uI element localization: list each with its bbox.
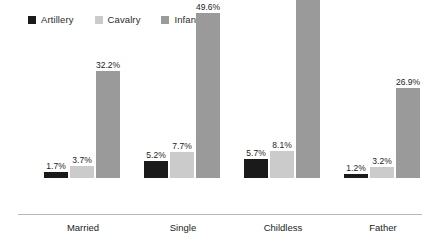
bar-group: 1.7%3.7%32.2%Married [44,0,122,215]
bar-column: 3.7% [70,0,94,178]
bar-group: 5.7%8.1%54.9%Childless [244,0,322,215]
bar-group-bars: 5.2%7.7%49.6% [144,0,222,178]
bar-value-label: 5.2% [146,150,165,160]
bar-group-bars: 5.7%8.1%54.9% [244,0,322,178]
bar-column: 7.7% [170,0,194,178]
bar-column: 26.9% [396,0,420,178]
bar-value-label: 8.1% [272,140,291,150]
bar-value-label: 5.7% [246,148,265,158]
bar[interactable] [396,88,420,178]
bar-value-label: 1.2% [346,163,365,173]
bar[interactable] [96,71,120,178]
x-axis-category-label: Married [44,222,122,234]
bar-column: 32.2% [96,0,120,178]
x-axis-category-label: Single [144,222,222,234]
bar[interactable] [270,151,294,178]
bar-value-label: 32.2% [96,60,120,70]
bar[interactable] [244,159,268,178]
bar[interactable] [196,13,220,178]
bar-value-label: 3.7% [72,155,91,165]
bar-column: 54.9% [296,0,320,178]
bar[interactable] [144,161,168,178]
bar-value-label: 3.2% [372,156,391,166]
bar-column: 5.7% [244,0,268,178]
bar-column: 49.6% [196,0,220,178]
bar-column: 5.2% [144,0,168,178]
bar-group-bars: 1.2%3.2%26.9% [344,0,422,178]
bar[interactable] [44,172,68,178]
x-axis-category-label: Childless [244,222,322,234]
bar-column: 3.2% [370,0,394,178]
bar-chart: Artillery Cavalry Infantry 1.7%3.7%32.2%… [0,0,437,251]
bar[interactable] [370,167,394,178]
bar-group: 5.2%7.7%49.6%Single [144,0,222,215]
x-axis-category-label: Father [344,222,422,234]
bar-group: 1.2%3.2%26.9%Father [344,0,422,215]
bar-column: 1.7% [44,0,68,178]
plot-area: 1.7%3.7%32.2%Married5.2%7.7%49.6%Single5… [0,0,437,215]
bar-value-label: 26.9% [396,77,420,87]
bar-column: 1.2% [344,0,368,178]
bar[interactable] [344,174,368,178]
bar-value-label: 7.7% [172,141,191,151]
bar[interactable] [70,166,94,178]
bar[interactable] [296,0,320,178]
bar-value-label: 1.7% [46,161,65,171]
bar-column: 8.1% [270,0,294,178]
bar-value-label: 49.6% [196,2,220,12]
bar[interactable] [170,152,194,178]
bar-group-bars: 1.7%3.7%32.2% [44,0,122,178]
